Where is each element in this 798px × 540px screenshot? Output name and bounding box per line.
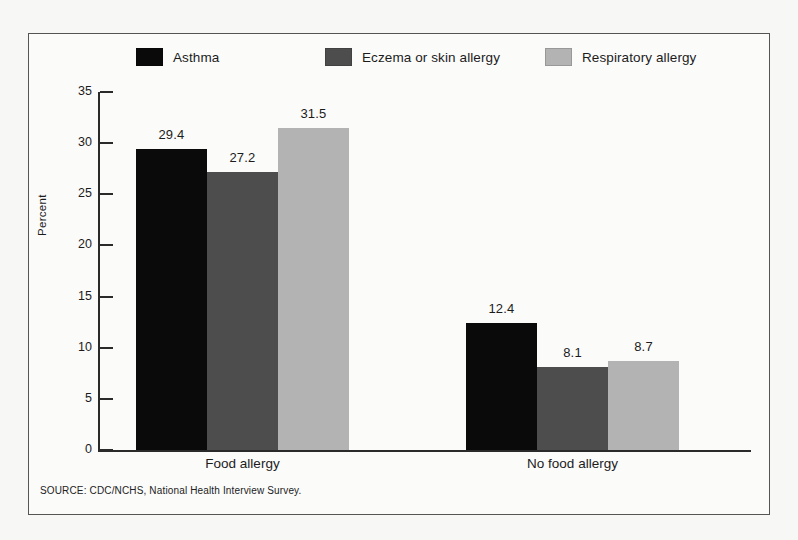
bar-value-label: 31.5 xyxy=(278,106,349,121)
bar xyxy=(537,367,608,450)
legend-label-asthma: Asthma xyxy=(173,50,219,65)
y-tick-0 xyxy=(100,449,113,451)
bar-value-label: 29.4 xyxy=(136,127,207,142)
bar xyxy=(207,172,278,450)
y-tick-20 xyxy=(100,244,113,246)
legend-swatch-asthma xyxy=(136,48,163,66)
bar-value-label: 8.1 xyxy=(537,345,608,360)
bar-value-label: 12.4 xyxy=(466,301,537,316)
legend-label-respiratory: Respiratory allergy xyxy=(582,50,696,65)
y-tick-10 xyxy=(100,347,113,349)
legend-label-eczema: Eczema or skin allergy xyxy=(362,50,500,65)
y-tick-15 xyxy=(100,296,113,298)
bar-value-label: 27.2 xyxy=(207,150,278,165)
y-tick-30 xyxy=(100,142,113,144)
y-tick-25 xyxy=(100,193,113,195)
legend-item-respiratory: Respiratory allergy xyxy=(545,44,696,70)
y-tick-label-20: 20 xyxy=(52,237,92,251)
bar xyxy=(608,361,679,450)
legend-swatch-eczema xyxy=(325,48,352,66)
y-tick-label-35: 35 xyxy=(52,84,92,98)
bar xyxy=(278,128,349,450)
chart-legend: Asthma Eczema or skin allergy Respirator… xyxy=(110,44,750,70)
y-tick-label-10: 10 xyxy=(52,340,92,354)
group-label: No food allergy xyxy=(466,456,679,471)
y-axis-title: Percent xyxy=(36,194,48,236)
y-tick-label-0: 0 xyxy=(52,442,92,456)
y-tick-label-30: 30 xyxy=(52,135,92,149)
group-label: Food allergy xyxy=(136,456,349,471)
legend-item-asthma: Asthma xyxy=(136,44,219,70)
bar xyxy=(466,323,537,450)
y-tick-label-15: 15 xyxy=(52,289,92,303)
y-tick-35 xyxy=(100,91,113,93)
bar xyxy=(136,149,207,450)
x-axis-line xyxy=(98,450,751,452)
legend-item-eczema: Eczema or skin allergy xyxy=(325,44,500,70)
bar-value-label: 8.7 xyxy=(608,339,679,354)
legend-swatch-respiratory xyxy=(545,48,572,66)
chart-screenshot: Asthma Eczema or skin allergy Respirator… xyxy=(0,0,798,540)
y-tick-5 xyxy=(100,398,113,400)
source-note: SOURCE: CDC/NCHS, National Health Interv… xyxy=(40,485,301,496)
y-tick-label-5: 5 xyxy=(52,391,92,405)
y-tick-label-25: 25 xyxy=(52,186,92,200)
